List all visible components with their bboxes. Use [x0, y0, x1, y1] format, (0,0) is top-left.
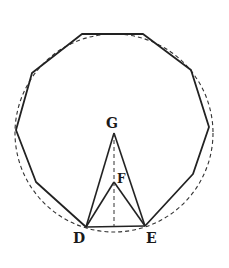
- label-G: G: [106, 115, 118, 131]
- segment-E-F: [114, 182, 145, 226]
- diagram-canvas: G F D E: [0, 0, 229, 268]
- segment-D-F: [86, 182, 114, 227]
- construction-lines: [86, 133, 145, 227]
- segment-D-G: [86, 133, 114, 227]
- label-D: D: [73, 230, 85, 246]
- label-F: F: [117, 172, 126, 186]
- segment-D-E: [86, 226, 145, 227]
- label-E: E: [146, 230, 157, 246]
- hendecagon-diagram: G F D E: [0, 0, 229, 268]
